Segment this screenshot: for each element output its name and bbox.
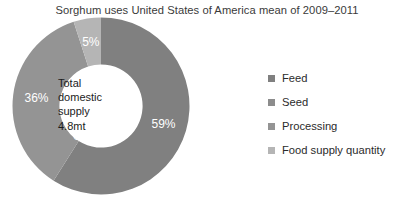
legend-item[interactable]: Feed bbox=[268, 66, 414, 90]
legend-item[interactable]: Seed bbox=[268, 90, 414, 114]
center-line-3: supply bbox=[58, 104, 144, 118]
donut-center-label: Total domestic supply 4.8mt bbox=[58, 76, 144, 133]
legend-swatch-icon bbox=[268, 99, 275, 106]
legend-item[interactable]: Food supply quantity bbox=[268, 138, 414, 162]
legend-swatch-icon bbox=[268, 123, 275, 130]
legend-item-label: Processing bbox=[282, 120, 337, 133]
legend-swatch-icon bbox=[268, 147, 275, 154]
center-line-1: Total bbox=[58, 76, 144, 90]
legend-item-label: Seed bbox=[282, 96, 308, 109]
chart-legend: FeedSeedProcessingFood supply quantity bbox=[268, 66, 414, 162]
donut-slice-value-label: 36% bbox=[24, 91, 48, 105]
legend-item-label: Food supply quantity bbox=[282, 144, 385, 157]
center-line-2: domestic bbox=[58, 90, 144, 104]
chart-screenshot: Sorghum uses United States of America me… bbox=[0, 0, 414, 202]
donut-slice-value-label: 59% bbox=[151, 117, 175, 131]
donut-slice-value-label: 5% bbox=[82, 35, 100, 49]
legend-swatch-icon bbox=[268, 75, 275, 82]
page-title: Sorghum uses United States of America me… bbox=[0, 3, 414, 17]
legend-item[interactable]: Processing bbox=[268, 114, 414, 138]
center-line-4: 4.8mt bbox=[58, 119, 144, 133]
legend-item-label: Feed bbox=[282, 72, 308, 85]
